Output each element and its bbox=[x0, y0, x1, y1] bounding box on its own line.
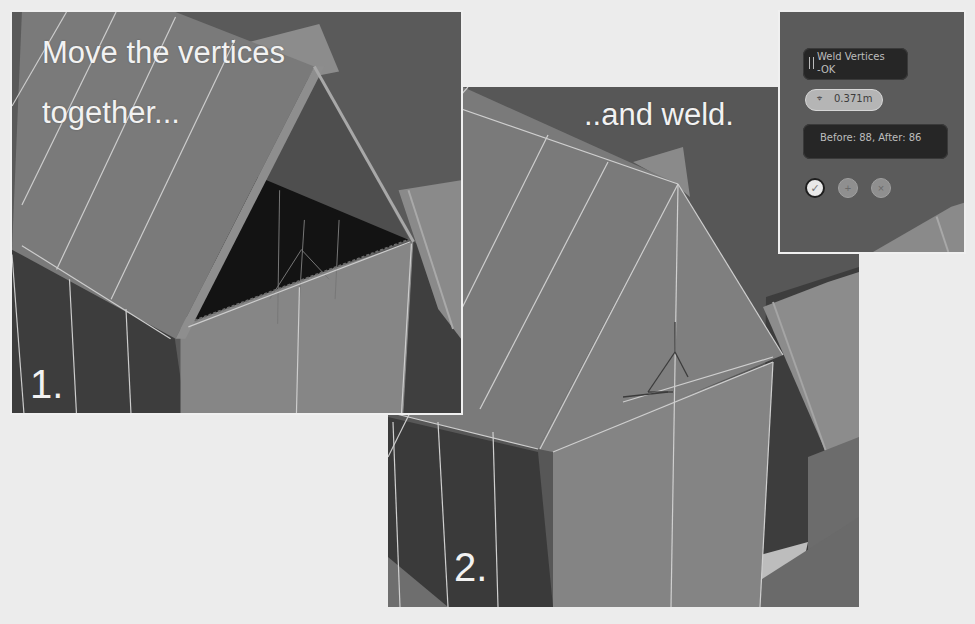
caption-line-2: together... bbox=[42, 97, 180, 128]
weld-result-box: Before: 88, After: 86 bbox=[803, 124, 948, 159]
add-button[interactable]: + bbox=[838, 178, 858, 198]
step-1-viewport: Move the vertices together... 1. bbox=[10, 10, 463, 415]
weld-status-title: Weld Vertices bbox=[817, 51, 885, 62]
grip-handle-icon[interactable] bbox=[809, 57, 814, 69]
weld-threshold-field[interactable]: ⌖ 0.371m bbox=[805, 89, 883, 111]
cancel-button[interactable]: × bbox=[871, 178, 891, 198]
weld-vertices-inset: Weld Vertices -OK ⌖ 0.371m Before: 88, A… bbox=[778, 10, 966, 254]
weld-vertices-status: Weld Vertices -OK bbox=[803, 48, 908, 80]
step-number-1: 1. bbox=[30, 364, 63, 404]
weld-status-ok: -OK bbox=[817, 64, 835, 75]
weld-result-text: Before: 88, After: 86 bbox=[820, 132, 921, 143]
close-icon: × bbox=[878, 183, 884, 194]
weld-distance-icon: ⌖ bbox=[817, 93, 822, 104]
checkmark-icon: ✓ bbox=[810, 183, 819, 194]
step-number-2: 2. bbox=[454, 547, 487, 587]
caption-and-weld: ..and weld. bbox=[584, 99, 734, 130]
weld-threshold-value: 0.371m bbox=[834, 93, 872, 104]
confirm-button[interactable]: ✓ bbox=[805, 178, 825, 198]
house-model-before-weld bbox=[12, 12, 461, 413]
caption-line-1: Move the vertices bbox=[42, 37, 285, 68]
plus-icon: + bbox=[845, 183, 851, 194]
